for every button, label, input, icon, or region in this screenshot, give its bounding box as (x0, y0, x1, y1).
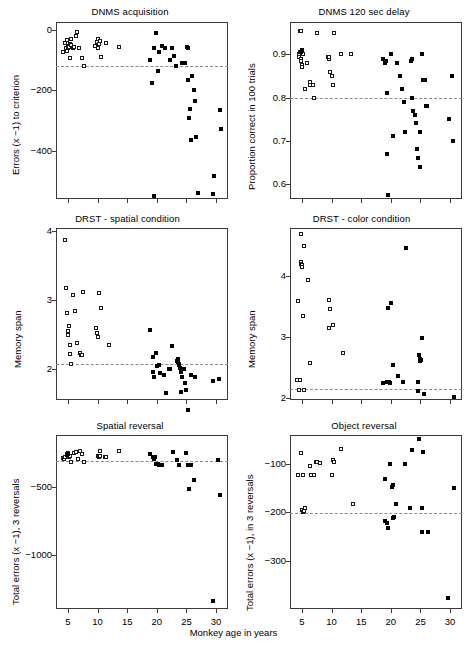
data-point-young (302, 388, 306, 392)
data-point-aged (389, 52, 393, 56)
data-point-young (332, 31, 336, 35)
y-tick-label: 0.8 (246, 92, 286, 103)
x-tick (302, 400, 303, 404)
data-point-aged (151, 355, 155, 359)
data-point-young (302, 509, 306, 513)
x-tick (186, 609, 187, 613)
data-point-aged (157, 363, 161, 367)
data-point-aged (180, 375, 184, 379)
data-point-young (69, 460, 73, 464)
data-point-young (303, 87, 307, 91)
data-point-aged (400, 87, 404, 91)
data-point-aged (394, 502, 398, 506)
data-point-aged (175, 458, 179, 462)
data-point-young (98, 449, 102, 453)
x-tick (127, 199, 128, 203)
data-point-young (296, 299, 300, 303)
data-point-aged (148, 58, 152, 62)
data-point-young (107, 343, 111, 347)
data-point-aged (425, 104, 429, 108)
data-point-aged (388, 462, 392, 466)
data-point-young (75, 341, 79, 345)
data-point-young (76, 457, 80, 461)
data-point-aged (410, 448, 414, 452)
panel-title: DRST - spatial condition (25, 213, 230, 224)
y-tick-label: −1000 (12, 549, 52, 560)
x-tick (157, 400, 158, 404)
data-point-aged (152, 194, 156, 198)
data-point-aged (171, 450, 175, 454)
y-tick (52, 369, 56, 370)
data-point-young (349, 52, 353, 56)
y-axis-label: Proportion correct in 100 trials (246, 63, 257, 190)
data-point-aged (413, 113, 417, 117)
data-point-aged (385, 91, 389, 95)
data-point-aged (410, 96, 414, 100)
y-tick-label: −200 (12, 84, 52, 95)
y-tick-label: −400 (12, 145, 52, 156)
y-tick-label: −300 (246, 555, 286, 566)
x-tick (68, 400, 69, 404)
y-tick-label: −100 (246, 458, 286, 469)
x-axis-title: Monkey age in years (0, 627, 467, 638)
x-tick-label: 10 (320, 616, 344, 627)
data-point-aged (160, 463, 164, 467)
x-tick (157, 199, 158, 203)
data-point-young (327, 55, 331, 59)
x-tick (216, 199, 217, 203)
data-point-aged (417, 437, 421, 441)
data-point-aged (212, 174, 216, 178)
data-point-young (301, 473, 305, 477)
data-point-young (68, 56, 72, 60)
data-point-aged (385, 521, 389, 525)
data-point-aged (426, 530, 430, 534)
x-tick (450, 609, 451, 613)
data-point-aged (170, 344, 174, 348)
y-tick (52, 90, 56, 91)
data-point-aged (189, 138, 193, 142)
data-point-young (64, 286, 68, 290)
y-axis-label: Total errors (x −1), in 3 reversals (244, 475, 255, 611)
data-point-aged (189, 463, 193, 467)
x-tick (302, 609, 303, 613)
data-point-young (75, 30, 79, 34)
data-point-aged (384, 59, 388, 63)
x-tick-label: 20 (379, 616, 403, 627)
y-tick (286, 276, 290, 277)
y-tick (286, 184, 290, 185)
data-point-aged (211, 379, 215, 383)
data-point-young (296, 473, 300, 477)
data-layer (290, 22, 462, 199)
data-point-aged (192, 478, 196, 482)
x-tick (216, 609, 217, 613)
x-tick (450, 400, 451, 404)
x-tick-label: 20 (145, 616, 169, 627)
y-tick-label: −500 (12, 481, 52, 492)
data-point-aged (196, 191, 200, 195)
y-tick-label: 0.9 (246, 48, 286, 59)
y-tick-label: 2 (12, 363, 52, 374)
x-tick-label: 10 (86, 616, 110, 627)
y-tick-label: 0.7 (246, 135, 286, 146)
data-point-aged (420, 530, 424, 534)
data-point-aged (187, 487, 191, 491)
data-point-aged (391, 134, 395, 138)
x-tick-label: 30 (204, 616, 228, 627)
data-point-aged (402, 100, 406, 104)
data-point-young (332, 460, 336, 464)
data-point-young (299, 29, 303, 33)
data-point-young (81, 290, 85, 294)
data-point-young (117, 45, 121, 49)
data-point-young (99, 55, 103, 59)
y-tick (286, 561, 290, 562)
data-point-aged (182, 367, 186, 371)
data-point-aged (388, 381, 392, 385)
data-point-young (298, 378, 302, 382)
data-point-aged (190, 74, 194, 78)
data-point-young (300, 65, 304, 69)
data-point-aged (177, 463, 181, 467)
data-point-young (308, 464, 312, 468)
data-point-aged (156, 69, 160, 73)
panel-title: DRST - color condition (259, 213, 464, 224)
data-point-aged (186, 408, 190, 412)
